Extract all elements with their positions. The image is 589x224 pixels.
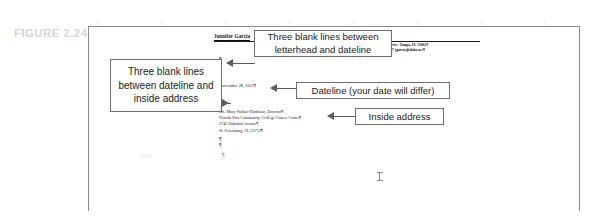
scan-artifact: [222, 152, 224, 155]
arrowhead-left-icon: [226, 59, 233, 67]
arrowhead-left-icon: [270, 84, 277, 92]
connector-line-top-callout: [233, 63, 255, 64]
callout-dateline-note: Dateline (your date will differ): [296, 82, 450, 99]
connector-line-inside-address-callout: [334, 116, 356, 117]
callout-blank-lines-dateline-address: Three blank lines between dateline and i…: [110, 59, 222, 112]
paragraph-marks-after-address: ¶ ¶: [219, 136, 222, 149]
scan-artifact: [140, 154, 152, 158]
callout-blank-lines-letterhead-dateline: Three blank lines between letterhead and…: [254, 30, 392, 57]
inside-address-block: Ms. Mary Walker-Harbison, Director¶ Flor…: [219, 109, 301, 134]
inside-address-line: St. Petersburg, FL 33713¶: [219, 128, 301, 134]
arrowhead-right-icon: [222, 99, 229, 107]
figure-label: FIGURE 2.24: [14, 27, 87, 39]
letterhead-name-text: Jennifer Garcia: [214, 33, 250, 41]
letterhead-name: Jennifer Garcia: [214, 33, 250, 41]
connector-line-dateline-callout: [277, 88, 297, 89]
arrowhead-left-icon: [327, 112, 334, 120]
callout-inside-address-note: Inside address: [355, 108, 444, 125]
figure-container: FIGURE 2.24 Jennifer Garcia 3-Bay Cliff …: [0, 0, 589, 224]
dateline-text: November 28, 2012¶: [219, 83, 256, 88]
text-cursor-icon: [379, 172, 380, 181]
paragraph-mark: ¶: [219, 142, 222, 148]
